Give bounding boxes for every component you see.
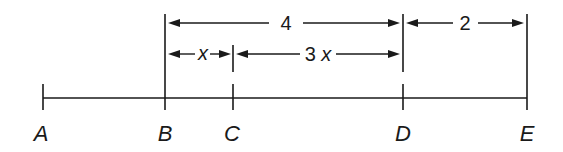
- dimension-label-de: 2: [459, 12, 470, 34]
- arrowhead-right-icon: [388, 19, 400, 27]
- dimension-bd: 4: [168, 12, 400, 34]
- dimension-label-cd-text: 3: [305, 43, 316, 65]
- arrowhead-right-icon: [388, 50, 400, 58]
- dimension-cd: 3 x: [236, 43, 400, 65]
- dimension-label-cd: 3 x: [305, 43, 333, 65]
- dimension-label-bc: x: [197, 42, 209, 64]
- point-label-c: C: [224, 121, 240, 146]
- dimension-de: 2: [406, 12, 524, 34]
- arrowhead-left-icon: [168, 19, 180, 27]
- point-label-b: B: [158, 121, 173, 146]
- segment-diagram: 4 2 x 3 x A B C D E: [0, 0, 563, 152]
- dimension-bc: x: [168, 42, 231, 64]
- point-label-d: D: [395, 121, 411, 146]
- arrowhead-right-icon: [219, 50, 231, 58]
- arrowhead-left-icon: [168, 50, 180, 58]
- point-label-e: E: [520, 121, 535, 146]
- arrowhead-left-icon: [236, 50, 248, 58]
- variable-x: x: [320, 43, 332, 65]
- arrowhead-right-icon: [512, 19, 524, 27]
- arrowhead-left-icon: [406, 19, 418, 27]
- dimension-label-bd: 4: [280, 12, 291, 34]
- point-label-a: A: [32, 121, 49, 146]
